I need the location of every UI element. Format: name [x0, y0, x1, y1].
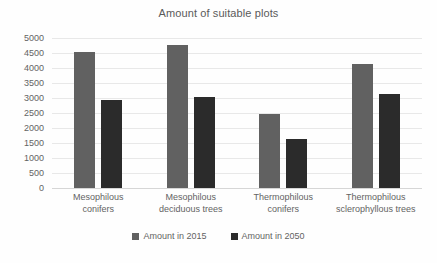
y-axis-tick-label: 3500: [24, 79, 44, 88]
y-axis-tick-label: 4500: [24, 49, 44, 58]
legend-label-2015: Amount in 2015: [143, 231, 206, 241]
y-axis-tick-label: 1000: [24, 154, 44, 163]
legend-item-2050[interactable]: Amount in 2050: [231, 231, 305, 241]
y-axis-tick-label: 3000: [24, 94, 44, 103]
bar-2050[interactable]: [101, 100, 122, 188]
gridline: [52, 188, 422, 189]
y-axis-tick-label: 4000: [24, 64, 44, 73]
bar-chart: Amount of suitable plots 500045004000350…: [0, 0, 437, 263]
y-axis-tick-label: 1500: [24, 139, 44, 148]
plot-area: [52, 38, 422, 188]
legend-swatch-icon-2015: [132, 233, 139, 240]
bar-2015[interactable]: [259, 114, 280, 188]
bar-2015[interactable]: [74, 52, 95, 188]
bar-2050[interactable]: [379, 94, 400, 188]
bars-layer: [52, 38, 422, 188]
y-axis-tick-label: 500: [29, 169, 44, 178]
bar-2050[interactable]: [194, 97, 215, 188]
y-axis: 5000450040003500300025002000150010005000: [0, 38, 48, 188]
category-axis-labels: MesophilousconifersMesophilousdeciduous …: [52, 192, 422, 224]
legend-item-2015[interactable]: Amount in 2015: [132, 231, 206, 241]
y-axis-tick-label: 5000: [24, 34, 44, 43]
bar-2015[interactable]: [352, 64, 373, 188]
chart-legend: Amount in 2015 Amount in 2050: [0, 231, 437, 241]
bar-2050[interactable]: [286, 139, 307, 189]
y-axis-tick-label: 2000: [24, 124, 44, 133]
category-label-line: sclerophyllous trees: [318, 204, 433, 216]
y-axis-tick-label: 2500: [24, 109, 44, 118]
bar-2015[interactable]: [167, 45, 188, 188]
chart-title: Amount of suitable plots: [0, 7, 437, 19]
legend-swatch-icon-2050: [231, 233, 238, 240]
legend-label-2050: Amount in 2050: [242, 231, 305, 241]
category-label-line: Thermophilous: [318, 192, 433, 204]
category-label: Thermophiloussclerophyllous trees: [318, 192, 433, 215]
